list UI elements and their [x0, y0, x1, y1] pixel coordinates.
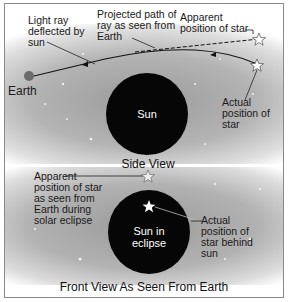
- star-outline-icon: [253, 33, 266, 45]
- front-actual-position-label: Actual position of star behind sun: [201, 215, 253, 259]
- projected-path-label: Projected path of ray as seen from Earth: [97, 9, 176, 42]
- actual-position-label: Actual position of star: [222, 97, 270, 130]
- star-outline-icon: [142, 170, 155, 182]
- earth-icon: [24, 71, 34, 81]
- side-view-title: Side View: [105, 157, 191, 171]
- front-view-title: Front View As Seen From Earth: [5, 280, 283, 294]
- diagram-frame: Sun Sun in eclipse: [4, 3, 284, 298]
- earth-label: Earth: [8, 86, 37, 97]
- apparent-position-label: Apparent position of star: [180, 12, 248, 34]
- front-apparent-position-label: Apparent position of star as seen from E…: [34, 171, 102, 226]
- star-filled-icon: [143, 200, 156, 212]
- star-outline-icon: [251, 59, 264, 71]
- light-ray-label: Light ray deflected by sun: [28, 15, 85, 48]
